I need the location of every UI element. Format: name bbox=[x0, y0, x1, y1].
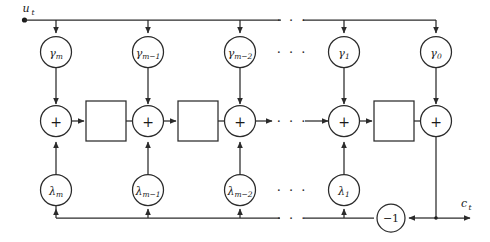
gamma-node-3-group: γ1 bbox=[329, 20, 360, 104]
sum-node-0-label: + bbox=[50, 114, 62, 130]
lambda-node-2-group: λm−2 bbox=[225, 142, 256, 206]
gamma-node-2-group: γm−2 bbox=[225, 20, 256, 104]
lambda-node-1-group: λm−1 bbox=[133, 142, 164, 206]
diagram-canvas: · · · u t γm γm−1 bbox=[0, 0, 490, 242]
sum-node-4-group: + bbox=[421, 106, 452, 137]
input-label: u t bbox=[22, 2, 35, 17]
lambda-row-ellipsis: · · · bbox=[277, 183, 308, 198]
sum-node-2-group: + bbox=[225, 106, 273, 137]
output-label-base: c bbox=[461, 197, 467, 210]
negative-one-gain-label: −1 bbox=[383, 212, 399, 225]
feedback-bus-ellipsis: · · · bbox=[277, 211, 308, 226]
sum-node-0-group: + bbox=[41, 106, 85, 137]
negative-one-gain-group: −1 bbox=[377, 204, 436, 232]
gamma-node-0-group: γm bbox=[41, 20, 72, 104]
lambda-node-3-group: λ1 bbox=[329, 142, 360, 206]
delay-box-3[interactable] bbox=[374, 101, 414, 141]
signal-flow-diagram: · · · u t γm γm−1 bbox=[0, 0, 490, 242]
output-label-subscript: t bbox=[468, 203, 472, 212]
delay-box-0[interactable] bbox=[86, 101, 126, 141]
feedback-bus bbox=[56, 209, 374, 218]
input-label-base: u bbox=[22, 2, 29, 15]
lambda-node-0-group: λm bbox=[41, 142, 72, 209]
sum-node-3-label: + bbox=[338, 114, 350, 130]
input-bus-ellipsis: · · · bbox=[277, 13, 308, 28]
sum-node-4-label: + bbox=[430, 114, 442, 130]
output-label: c t bbox=[461, 197, 473, 212]
input-bus bbox=[22, 17, 436, 22]
sum-row-ellipsis: · · · bbox=[277, 114, 308, 129]
sum-node-1-group: + bbox=[133, 106, 177, 137]
sum-node-3-group: + bbox=[329, 106, 373, 137]
gamma-node-4-group: γ0 bbox=[421, 20, 452, 104]
gamma-node-1-group: γm−1 bbox=[133, 20, 164, 104]
sum-node-2-label: + bbox=[234, 114, 246, 130]
sum-node-1-label: + bbox=[142, 114, 154, 130]
input-label-subscript: t bbox=[31, 8, 35, 17]
delay-box-1[interactable] bbox=[178, 101, 218, 141]
gamma-row-ellipsis: · · · bbox=[277, 45, 308, 60]
